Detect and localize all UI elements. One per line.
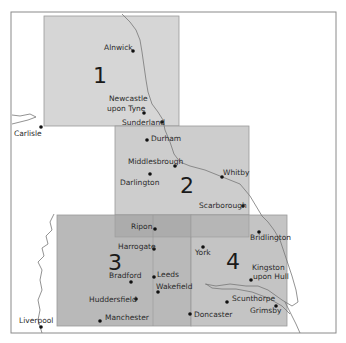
city-dot <box>153 227 157 231</box>
city-dot <box>98 319 102 323</box>
city-label: Ripon <box>131 222 153 231</box>
city-dot <box>152 275 156 279</box>
city-label: Bridlington <box>250 233 291 242</box>
city-durham[interactable]: Durham <box>145 134 181 143</box>
city-doncaster[interactable]: Doncaster <box>188 310 233 319</box>
city-label: Middlesbrough <box>128 157 183 166</box>
city-grimsby[interactable]: Grimsby <box>250 304 282 315</box>
city-huddersfield[interactable]: Huddersfield <box>89 295 138 304</box>
city-label: Manchester <box>105 313 150 322</box>
city-label: Darlington <box>120 178 160 187</box>
city-harrogate[interactable]: Harrogate <box>118 242 156 251</box>
region-2-label: 2 <box>180 173 194 198</box>
city-dot <box>39 325 43 329</box>
city-label: Scunthorpe <box>232 294 276 303</box>
city-label: Alnwick <box>104 43 133 52</box>
city-label: Whitby <box>223 168 250 177</box>
city-label: Scarborough <box>199 201 247 210</box>
map-canvas: 1 2 3 4 Alnwick Newcastle upon Tyne Sund… <box>0 0 346 343</box>
city-label: Carlisle <box>14 129 42 138</box>
city-label: Wakefield <box>156 282 193 291</box>
city-label: Durham <box>151 134 181 143</box>
city-label: Kingston <box>252 263 285 272</box>
overlap-2-4 <box>191 215 249 237</box>
city-label: Liverpool <box>19 316 53 325</box>
city-newcastle[interactable]: Newcastle upon Tyne <box>107 94 148 115</box>
city-dot <box>145 138 149 142</box>
city-label: Bradford <box>109 271 142 280</box>
city-label: Grimsby <box>250 306 282 315</box>
city-scarborough[interactable]: Scarborough <box>199 201 247 210</box>
region-4-label: 4 <box>226 249 240 274</box>
city-dot <box>148 172 152 176</box>
city-label: Huddersfield <box>89 295 137 304</box>
region-1-label: 1 <box>93 63 107 88</box>
city-manchester[interactable]: Manchester <box>98 313 150 323</box>
city-scunthorpe[interactable]: Scunthorpe <box>225 294 275 304</box>
city-dot <box>129 280 133 284</box>
city-label: Sunderland <box>122 118 165 127</box>
city-leeds[interactable]: Leeds <box>152 270 179 279</box>
city-dot <box>225 300 229 304</box>
city-label-line2: upon Tyne <box>107 104 146 113</box>
city-label: Harrogate <box>118 242 156 251</box>
city-label: York <box>194 248 211 257</box>
city-label: Leeds <box>157 270 179 279</box>
city-alnwick[interactable]: Alnwick <box>104 43 135 53</box>
city-sunderland[interactable]: Sunderland <box>122 118 165 127</box>
city-label-line2: upon Hull <box>253 272 289 281</box>
city-kingston-upon-hull[interactable]: Kingston upon Hull <box>249 263 289 282</box>
city-dot <box>188 312 192 316</box>
city-label: Doncaster <box>194 310 233 319</box>
city-label: Newcastle <box>109 94 148 103</box>
